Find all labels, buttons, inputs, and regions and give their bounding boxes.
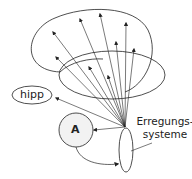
- hipp-label: hipp: [20, 88, 44, 101]
- projection-arrows: [53, 14, 134, 130]
- erregung-ellipse: [119, 128, 133, 172]
- erregung-line1: Erregungs-: [136, 115, 192, 128]
- erregungssysteme-label: Erregungs- systeme: [136, 115, 192, 141]
- cortex-outline: [31, 9, 152, 92]
- a-label: A: [71, 123, 80, 136]
- erregung-line2: systeme: [136, 128, 192, 141]
- inner-ellipse: [59, 51, 165, 99]
